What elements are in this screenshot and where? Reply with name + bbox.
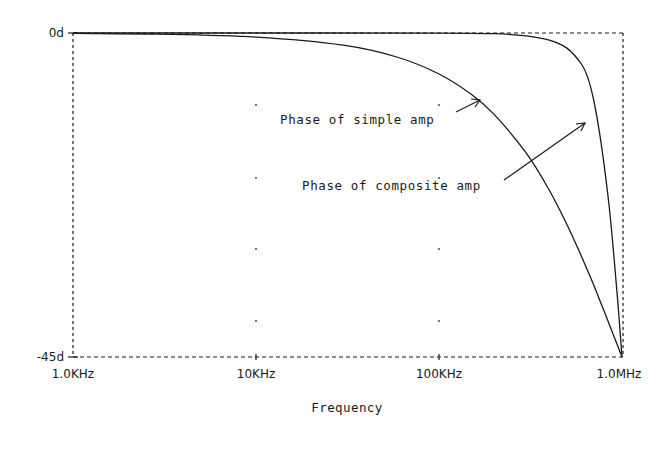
annotation-simple-amp: Phase of simple amp [280,112,434,127]
x-tick-label-10khz: 10KHz [237,367,275,381]
x-tick-label-1khz: 1.0KHz [52,367,94,381]
arrow-simple-amp [456,99,480,112]
y-tick-label-top: 0d [49,26,64,40]
series-composite-amp-line [73,33,622,357]
y-tick-label-bottom: -45d [37,350,64,364]
phase-chart: 0d -45d 1.0KHz 10KHz 100KHz 1.0MHz Frequ… [0,0,652,457]
x-tick-label-100khz: 100KHz [416,367,462,381]
grid-points [255,104,440,322]
plot-frame [73,33,623,357]
series-simple-amp-line [73,33,622,357]
x-tick-label-1mhz: 1.0MHz [597,367,642,381]
x-axis-title: Frequency [311,400,382,415]
annotation-composite-amp: Phase of composite amp [302,178,481,193]
arrow-composite-amp [504,123,585,180]
